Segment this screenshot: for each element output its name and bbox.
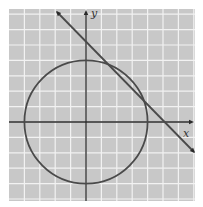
x-axis-label: x [183,127,190,140]
y-axis-label: y [90,7,98,20]
coordinate-plane: x y [0,0,203,207]
